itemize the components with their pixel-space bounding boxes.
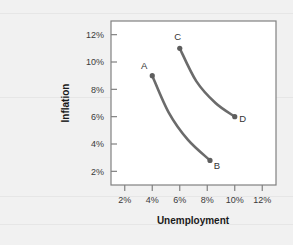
x-tick-label: 6% (173, 195, 186, 205)
point-label-a: A (141, 60, 148, 71)
data-point-marker (207, 158, 212, 163)
point-label-c: C (174, 31, 181, 42)
x-tick-label: 4% (146, 195, 159, 205)
x-tick-label: 8% (201, 195, 214, 205)
y-tick-label: 4% (91, 139, 104, 149)
x-tick-label: 2% (118, 195, 131, 205)
chart-svg: 2%4%6%8%10%12% 2%4%6%8%10%12% ABCD Unemp… (0, 0, 293, 245)
plot-area-background (111, 21, 276, 185)
y-tick-label: 8% (91, 85, 104, 95)
y-tick-label: 12% (86, 30, 104, 40)
data-point-marker (150, 73, 155, 78)
point-label-b: B (214, 160, 220, 171)
x-axis-ticks (125, 185, 263, 191)
point-label-d: D (239, 113, 246, 124)
x-tick-label: 12% (253, 195, 271, 205)
x-tick-label: 10% (226, 195, 244, 205)
phillips-curve-chart: 2%4%6%8%10%12% 2%4%6%8%10%12% ABCD Unemp… (0, 0, 293, 245)
y-axis-title: Inflation (60, 84, 71, 123)
y-tick-label: 2% (91, 167, 104, 177)
data-point-marker (232, 114, 237, 119)
y-tick-label: 6% (91, 112, 104, 122)
y-tick-label: 10% (86, 57, 104, 67)
x-axis-title: Unemployment (157, 215, 230, 226)
data-point-marker (177, 46, 182, 51)
x-axis-tick-labels: 2%4%6%8%10%12% (118, 195, 271, 205)
y-axis-tick-labels: 2%4%6%8%10%12% (86, 30, 104, 177)
